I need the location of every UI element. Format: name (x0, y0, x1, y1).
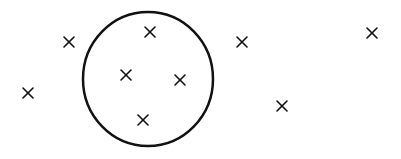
cross-marker-inside (121, 70, 131, 80)
cross-marker-inside (138, 115, 148, 125)
diagram-canvas (0, 0, 401, 159)
cross-marker-inside (175, 75, 185, 85)
diagram-svg (0, 0, 401, 159)
cross-marker-inside (145, 27, 155, 37)
enclosing-circle (83, 12, 213, 146)
cross-marker-outside (237, 37, 247, 47)
cross-marker-outside (277, 101, 287, 111)
cross-marker-outside (367, 28, 377, 38)
cross-marker-outside (23, 88, 33, 98)
cross-markers (23, 27, 377, 125)
cross-marker-outside (64, 37, 74, 47)
